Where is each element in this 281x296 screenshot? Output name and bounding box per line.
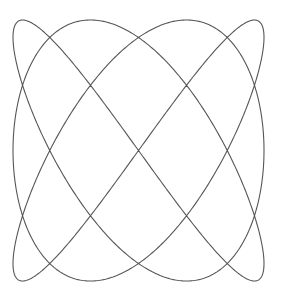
lissajous-plot [0,0,281,296]
